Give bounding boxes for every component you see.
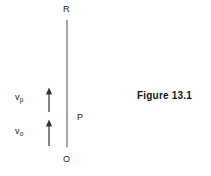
point-label-o: O bbox=[63, 155, 70, 164]
velocity-arrow-vo bbox=[46, 120, 52, 147]
velocity-symbol-vp: v bbox=[15, 92, 20, 102]
velocity-label-vo: vo bbox=[15, 127, 23, 136]
velocity-subscript-vo: o bbox=[20, 130, 24, 137]
point-label-r: R bbox=[63, 5, 70, 14]
physics-diagram: R O P vp vo bbox=[0, 0, 150, 176]
velocity-label-vp: vp bbox=[15, 93, 23, 102]
velocity-symbol-vo: v bbox=[15, 126, 20, 136]
velocity-subscript-vp: p bbox=[20, 96, 24, 103]
figure-screenshot: R O P vp vo Figure 13.1 bbox=[0, 0, 211, 176]
diagram-canvas bbox=[0, 0, 150, 176]
figure-caption: Figure 13.1 bbox=[137, 90, 192, 101]
velocity-arrow-vp bbox=[46, 88, 52, 113]
point-label-p: P bbox=[77, 113, 83, 122]
